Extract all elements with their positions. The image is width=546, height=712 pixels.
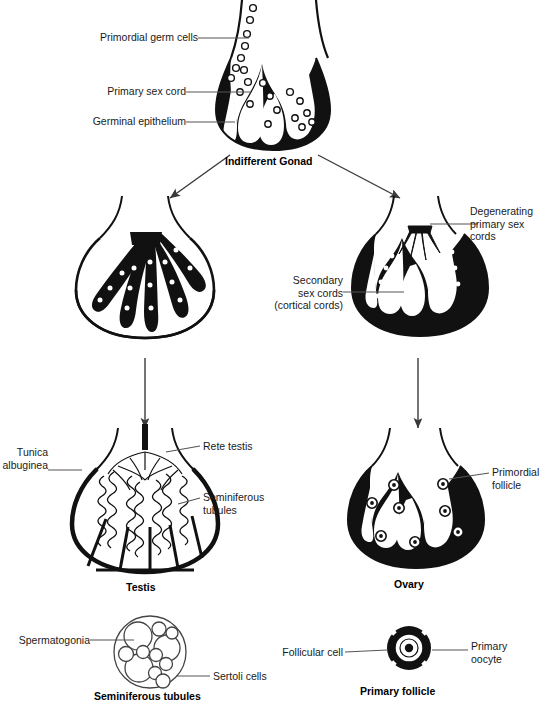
label-germinal-epithelium: Germinal epithelium [62, 115, 186, 128]
caption-testis: Testis [126, 581, 156, 593]
label-primordial-follicle: Primordial follicle [492, 466, 546, 491]
label-sertoli-cells: Sertoli cells [213, 670, 267, 683]
leader-rete [166, 446, 200, 452]
caption-indifferent-gonad: Indifferent Gonad [225, 155, 313, 167]
leader-follicular-cell [345, 650, 387, 652]
caption-seminiferous-tubules: Seminiferous tubules [94, 690, 201, 702]
diagram-graphics [0, 0, 546, 712]
primary-follicle-inset-figure [345, 620, 468, 676]
caption-primary-follicle: Primary follicle [360, 685, 435, 697]
label-seminiferous-tubules: Seminiferous tubules [203, 491, 283, 516]
label-rete-testis: Rete testis [203, 440, 253, 453]
label-spermatogonia: Spermatogonia [4, 634, 90, 647]
testis-figure [48, 424, 218, 572]
arrow-to-male [170, 155, 230, 198]
seminiferous-inset-figure [90, 616, 210, 688]
label-secondary-sex-cords: Secondary sex cords (cortical cords) [248, 274, 343, 312]
label-primary-oocyte: Primary oocyte [471, 640, 531, 665]
label-follicular-cell: Follicular cell [255, 646, 343, 659]
caption-ovary: Ovary [394, 578, 424, 590]
leader-tubules [178, 498, 200, 504]
label-degenerating-primary-sex-cords: Degenerating primary sex cords [470, 205, 546, 243]
label-tunica-albuginea: Tunica albuginea [0, 446, 48, 471]
male-intermediate-figure [76, 196, 214, 338]
indifferent-gonad-figure [186, 0, 330, 150]
female-intermediate-figure [343, 196, 488, 336]
label-primary-sex-cord: Primary sex cord [76, 85, 186, 98]
diagram-canvas: Primordial germ cells Primary sex cord G… [0, 0, 546, 712]
label-primordial-germ-cells: Primordial germ cells [74, 31, 198, 44]
arrow-to-female [318, 155, 400, 198]
ovary-figure [348, 428, 489, 568]
